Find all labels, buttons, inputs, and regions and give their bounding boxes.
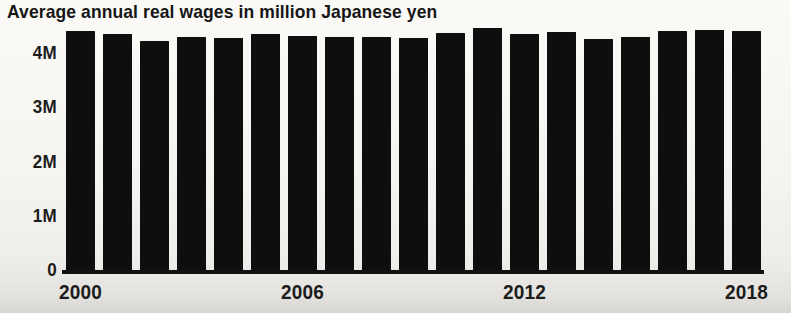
y-tick-label-0: 0 <box>5 260 57 282</box>
x-tick-label-2000: 2000 <box>46 281 116 304</box>
bar-2002 <box>140 41 169 270</box>
y-tick-label-1M: 1M <box>5 206 57 228</box>
bar-2009 <box>399 38 428 270</box>
bar-2010 <box>436 33 465 270</box>
bar-2012 <box>510 34 539 270</box>
x-axis-line <box>62 270 764 274</box>
bar-2018 <box>732 31 761 270</box>
chart-title: Average annual real wages in million Jap… <box>7 1 437 23</box>
bar-2004 <box>214 38 243 270</box>
y-tick-label-2M: 2M <box>5 152 57 174</box>
x-tick-label-2018: 2018 <box>712 281 782 304</box>
bar-2011 <box>473 28 502 270</box>
x-tick-label-2012: 2012 <box>490 281 560 304</box>
bar-2017 <box>695 30 724 270</box>
bar-2001 <box>103 34 132 270</box>
bar-2006 <box>288 36 317 270</box>
bar-2013 <box>547 32 576 270</box>
x-tick-label-2006: 2006 <box>268 281 338 304</box>
wage-chart-figure: Average annual real wages in million Jap… <box>0 0 791 313</box>
bar-2007 <box>325 37 354 270</box>
y-tick-label-4M: 4M <box>5 43 57 65</box>
bar-2003 <box>177 37 206 270</box>
y-tick-label-3M: 3M <box>5 97 57 119</box>
bar-2005 <box>251 34 280 270</box>
bar-2016 <box>658 31 687 270</box>
bar-2008 <box>362 37 391 270</box>
bar-2014 <box>584 39 613 270</box>
bar-2015 <box>621 37 650 270</box>
bar-2000 <box>66 31 95 270</box>
